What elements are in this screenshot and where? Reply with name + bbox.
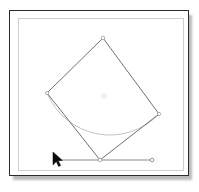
center-mark-point	[101, 93, 108, 100]
line-right-endpoint[interactable]	[150, 158, 154, 162]
vertex-right-point[interactable]	[157, 112, 160, 115]
vertex-bottom-point[interactable]	[98, 158, 102, 162]
geometry-canvas[interactable]	[0, 0, 199, 192]
screenshot-root	[0, 0, 199, 192]
vertex-left-point[interactable]	[45, 91, 48, 94]
vertex-top-point[interactable]	[101, 36, 105, 40]
rotated-square[interactable]	[47, 38, 159, 160]
mouse-pointer-icon	[53, 152, 62, 166]
